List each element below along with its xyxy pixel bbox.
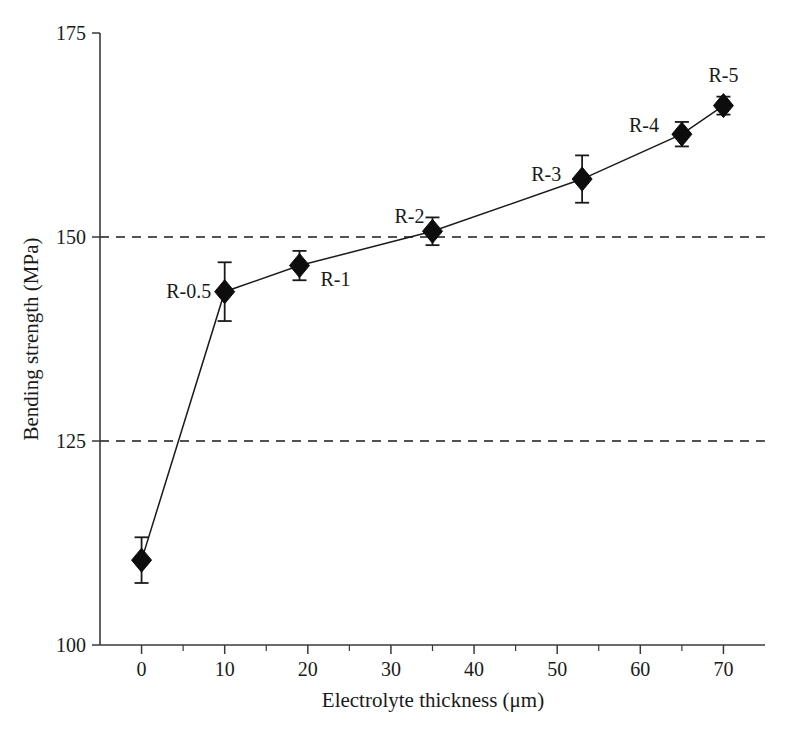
- x-tick-label-40: 40: [464, 658, 484, 680]
- data-series-group: [142, 106, 724, 561]
- x-tick-label-10: 10: [215, 658, 235, 680]
- x-tick-label-0: 0: [137, 658, 147, 680]
- data-marker-r-4: [672, 122, 692, 146]
- y-axis-title: Bending strength (MPa): [19, 238, 43, 441]
- data-marker-r-0.5: [215, 280, 235, 304]
- y-tick-label-125: 125: [56, 430, 86, 452]
- data-point-label-r-0.5: R-0.5: [166, 280, 211, 302]
- data-markers-group: [132, 94, 734, 573]
- x-tick-label-60: 60: [630, 658, 650, 680]
- series-line-bending-strength: [142, 106, 724, 561]
- data-point-label-r-1: R-1: [321, 268, 351, 290]
- x-tick-label-50: 50: [547, 658, 567, 680]
- error-bars-group: [135, 97, 731, 583]
- data-point-labels-group: R-0.5R-1R-2R-3R-4R-5: [166, 64, 738, 302]
- y-tick-label-175: 175: [56, 22, 86, 44]
- x-tick-label-30: 30: [381, 658, 401, 680]
- data-point-label-r-4: R-4: [629, 114, 659, 136]
- gridlines-group: [100, 237, 765, 441]
- x-tick-label-70: 70: [713, 658, 733, 680]
- bending-strength-chart-figure: 100125150175010203040506070 R-0.5R-1R-2R…: [0, 0, 789, 729]
- data-marker-r-2: [423, 219, 443, 243]
- data-marker-baseline: [132, 548, 152, 572]
- data-point-label-r-5: R-5: [708, 64, 738, 86]
- axes-group: [100, 33, 765, 645]
- chart-canvas: 100125150175010203040506070 R-0.5R-1R-2R…: [0, 0, 789, 729]
- data-point-label-r-3: R-3: [531, 163, 561, 185]
- data-marker-r-3: [572, 167, 592, 191]
- data-marker-r-1: [290, 254, 310, 278]
- y-tick-label-100: 100: [56, 634, 86, 656]
- x-tick-label-20: 20: [298, 658, 318, 680]
- data-point-label-r-2: R-2: [395, 205, 425, 227]
- x-axis-title: Electrolyte thickness (μm): [322, 688, 544, 712]
- y-tick-label-150: 150: [56, 226, 86, 248]
